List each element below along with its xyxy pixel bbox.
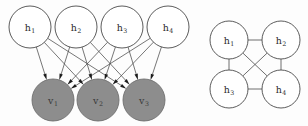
visible-node-circle bbox=[77, 79, 119, 121]
hidden-node-circle bbox=[210, 21, 248, 59]
visible-node-group: v1v2v3 bbox=[32, 79, 165, 121]
edge-h3-to-v3 bbox=[128, 47, 136, 74]
arrowhead-h3-to-v3 bbox=[135, 73, 138, 79]
hidden-node-group: h1h2h3h4 bbox=[9, 6, 189, 48]
arrowhead-h1-to-v1 bbox=[43, 74, 46, 80]
node-h4: h4 bbox=[147, 6, 189, 48]
visible-node-circle bbox=[32, 79, 74, 121]
node-rh1: h1 bbox=[210, 21, 248, 59]
arrowhead-h2-to-v1 bbox=[59, 74, 62, 80]
node-h1: h1 bbox=[9, 6, 51, 48]
arrowhead-h4-to-v3 bbox=[151, 74, 155, 80]
node-h3: h3 bbox=[101, 6, 143, 48]
arrowhead-h2-to-v2 bbox=[89, 73, 92, 79]
node-h2: h2 bbox=[55, 6, 97, 48]
left-panel-edge-group bbox=[36, 38, 161, 85]
hidden-node-circle bbox=[262, 70, 300, 108]
edge-h2-to-v2 bbox=[82, 47, 90, 74]
visible-node-circle bbox=[123, 79, 165, 121]
arrowhead-h4-to-v1 bbox=[71, 84, 77, 89]
edge-h2-to-v1 bbox=[61, 47, 70, 74]
hidden-node-circle bbox=[262, 21, 300, 59]
hidden-node-circle bbox=[9, 6, 51, 48]
graph-diagram-canvas: v1v2v3 h1h2h3h4 h1h2h3h4 bbox=[0, 0, 308, 126]
node-v3: v3 bbox=[123, 79, 165, 121]
hidden-node-circle bbox=[147, 6, 189, 48]
node-rh2: h2 bbox=[262, 21, 300, 59]
node-rh4: h4 bbox=[262, 70, 300, 108]
hidden-node-circle bbox=[55, 6, 97, 48]
hidden-node-circle bbox=[101, 6, 143, 48]
edge-h3-to-v2 bbox=[106, 47, 115, 74]
hidden-node-circle bbox=[210, 70, 248, 108]
node-v2: v2 bbox=[77, 79, 119, 121]
edge-h1-to-v1 bbox=[36, 47, 45, 74]
arrowhead-h1-to-v3 bbox=[120, 84, 126, 89]
figure-container: v1v2v3 h1h2h3h4 h1h2h3h4 bbox=[0, 0, 308, 126]
node-rh3: h3 bbox=[210, 70, 248, 108]
node-v1: v1 bbox=[32, 79, 74, 121]
edge-h4-to-v3 bbox=[152, 47, 161, 74]
